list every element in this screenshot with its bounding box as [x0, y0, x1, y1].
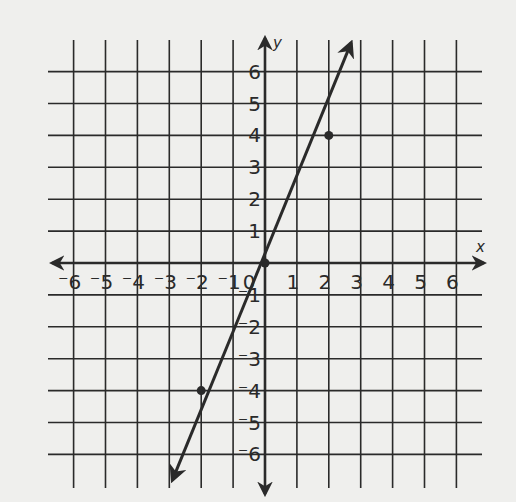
x-tick-label: 2	[318, 270, 331, 294]
x-tick-label: 5	[414, 270, 427, 294]
y-tick-label: 6	[248, 60, 261, 84]
y-tick-label: 3	[248, 155, 261, 179]
x-tick-label: 3	[350, 270, 363, 294]
data-line	[172, 43, 351, 480]
x-tick-label: ⁻4	[122, 270, 145, 294]
coordinate-plane: ⁻6⁻5⁻4⁻3⁻2⁻10123456654321⁻1⁻2⁻3⁻4⁻5⁻6 x …	[0, 0, 516, 502]
x-tick-label: ⁻3	[154, 270, 177, 294]
data-point	[197, 386, 206, 395]
y-tick-label: ⁻2	[238, 315, 261, 339]
x-tick-label: 4	[382, 270, 395, 294]
x-tick-label: ⁻5	[90, 270, 113, 294]
x-tick-label: ⁻6	[58, 270, 81, 294]
y-tick-label: ⁻4	[238, 379, 261, 403]
y-axis-label: y	[272, 34, 283, 52]
y-tick-label: 2	[248, 187, 261, 211]
y-tick-label: ⁻5	[238, 411, 261, 435]
y-tick-label: ⁻6	[238, 442, 261, 466]
data-point	[324, 131, 333, 140]
data-point	[261, 259, 270, 268]
x-axis-label: x	[475, 238, 485, 256]
y-tick-label: 1	[248, 219, 261, 243]
x-tick-label: ⁻2	[186, 270, 209, 294]
y-tick-label: 5	[248, 92, 261, 116]
y-tick-label: 4	[248, 123, 261, 147]
y-tick-label: ⁻3	[238, 347, 261, 371]
x-tick-label: 1	[287, 270, 300, 294]
x-tick-label: 6	[446, 270, 459, 294]
